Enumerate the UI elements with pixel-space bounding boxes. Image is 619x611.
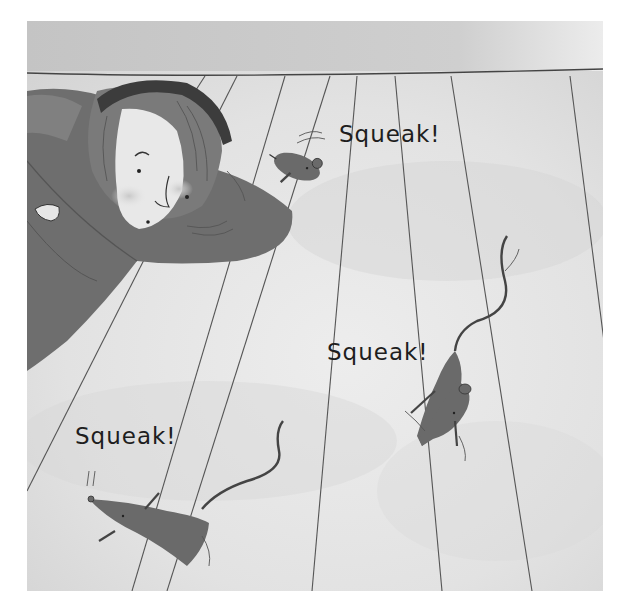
illustration-frame: Squeak! Squeak! Squeak!: [27, 21, 603, 591]
illustration: [27, 21, 603, 591]
squeak-caption-middle: Squeak!: [327, 339, 429, 365]
squeak-caption-top: Squeak!: [339, 121, 441, 147]
squeak-caption-bottom: Squeak!: [75, 423, 177, 449]
wall: [27, 21, 603, 77]
